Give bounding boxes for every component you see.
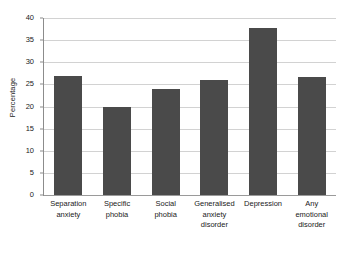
x-axis-label: Socialphobia xyxy=(141,199,190,231)
bar xyxy=(200,80,228,195)
bar-series xyxy=(44,18,336,195)
x-axis-tick-labels: SeparationanxietySpecificphobiaSocialpho… xyxy=(44,199,336,231)
x-axis-label-line: emotional xyxy=(288,210,335,221)
x-axis-label-line: phobia xyxy=(142,210,189,221)
x-axis-label-line: Separation xyxy=(45,199,92,210)
x-axis-label-line: anxiety xyxy=(191,210,238,221)
y-tick-label-5: 5 xyxy=(30,169,34,177)
y-axis-tick-labels: 0510152025303540 xyxy=(0,0,40,213)
y-tick-label-25: 25 xyxy=(26,81,34,89)
x-axis-label-line: disorder xyxy=(288,220,335,231)
x-axis-label-line: Any xyxy=(288,199,335,210)
y-tick-label-15: 15 xyxy=(26,125,34,133)
bar xyxy=(249,28,277,195)
bar-slot xyxy=(44,18,93,195)
bar-slot xyxy=(141,18,190,195)
bar-slot xyxy=(93,18,142,195)
x-axis-label: Anyemotionaldisorder xyxy=(287,199,336,231)
y-tick-label-35: 35 xyxy=(26,36,34,44)
y-tick-label-30: 30 xyxy=(26,59,34,67)
bar xyxy=(103,107,131,195)
bar xyxy=(298,77,326,195)
bar-slot xyxy=(190,18,239,195)
bar xyxy=(54,76,82,195)
x-axis-label: Depression xyxy=(239,199,288,231)
x-axis-label: Generalisedanxietydisorder xyxy=(190,199,239,231)
y-tick-label-10: 10 xyxy=(26,147,34,155)
bar-chart: Percentage 0510152025303540 Separationan… xyxy=(0,0,344,257)
x-axis-label-line: phobia xyxy=(94,210,141,221)
bar xyxy=(152,89,180,195)
x-axis-label-line: anxiety xyxy=(45,210,92,221)
y-tick-label-0: 0 xyxy=(30,191,34,199)
x-axis-label: Separationanxiety xyxy=(44,199,93,231)
plot-area xyxy=(44,18,336,195)
y-tick-label-40: 40 xyxy=(26,14,34,22)
x-axis-label-line: Generalised xyxy=(191,199,238,210)
bar-slot xyxy=(287,18,336,195)
gridline-0 xyxy=(44,195,336,196)
y-tick-label-20: 20 xyxy=(26,103,34,111)
x-axis-label-line: Specific xyxy=(94,199,141,210)
x-axis-label-line: Depression xyxy=(240,199,287,210)
bar-slot xyxy=(239,18,288,195)
x-axis-label-line: Social xyxy=(142,199,189,210)
x-axis-label: Specificphobia xyxy=(93,199,142,231)
x-axis-label-line: disorder xyxy=(191,220,238,231)
